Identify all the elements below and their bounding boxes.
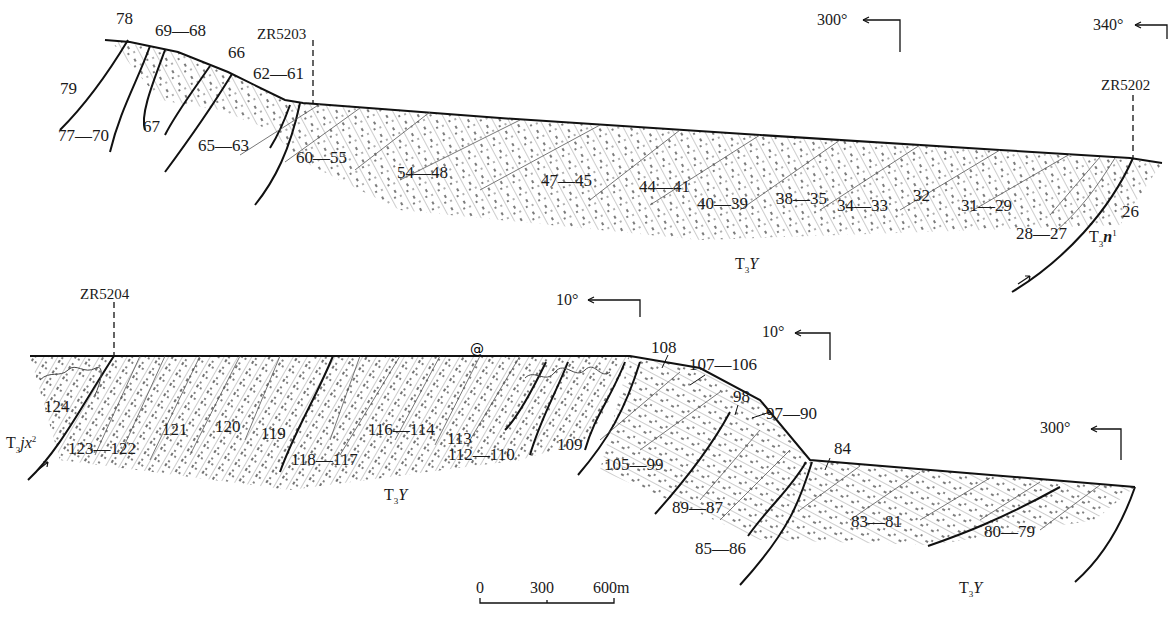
well-label-zr5204: ZR5204 bbox=[80, 287, 129, 302]
bed-label: 34—33 bbox=[837, 197, 888, 214]
orientation-marker-10-b bbox=[795, 330, 830, 360]
bed-label: 69—68 bbox=[155, 22, 206, 39]
scale-tick-300: 300 bbox=[530, 580, 554, 596]
bed-label: 121 bbox=[162, 421, 188, 438]
orientation-marker-10-a bbox=[588, 297, 640, 317]
orientation-label-10-b: 10° bbox=[762, 324, 784, 340]
bed-label: 32 bbox=[913, 187, 930, 204]
orientation-marker-300-lower bbox=[1091, 426, 1121, 460]
orientation-marker-300-upper bbox=[863, 17, 900, 52]
unit-label-t3y-lower-right: T3Y bbox=[959, 580, 982, 599]
bed-label: 77—70 bbox=[58, 127, 109, 144]
bed-label: 54—48 bbox=[397, 164, 448, 181]
unit-label-t3jx2: T3jx2 bbox=[6, 435, 36, 455]
bed-label: 89—87 bbox=[672, 499, 723, 516]
scale-tick-0: 0 bbox=[476, 580, 484, 596]
bed-label: 47—45 bbox=[541, 172, 592, 189]
bed-label: 118—117 bbox=[291, 451, 358, 468]
bed-label: 108 bbox=[651, 339, 677, 356]
unit-label-t3n1: T3n1 bbox=[1089, 229, 1117, 249]
bed-label: 78 bbox=[116, 10, 133, 27]
bed-label: 97—90 bbox=[766, 405, 817, 422]
bed-label: 80—79 bbox=[984, 523, 1035, 540]
bed-label: 65—63 bbox=[198, 137, 249, 154]
bed-label: 107—106 bbox=[689, 356, 757, 373]
bed-label: 31—29 bbox=[961, 197, 1012, 214]
bed-label: 28—27 bbox=[1016, 225, 1067, 242]
bed-label: 83—81 bbox=[851, 513, 902, 530]
bed-label: 84 bbox=[834, 440, 851, 457]
scale-bar bbox=[480, 598, 614, 603]
bed-label: 38—35 bbox=[776, 190, 827, 207]
orientation-label-300: 300° bbox=[817, 12, 847, 28]
bed-label: 98 bbox=[733, 388, 750, 405]
scale-tick-600m: 600m bbox=[593, 580, 629, 596]
unit-label-t3y-lower: T3Y bbox=[384, 487, 407, 506]
bed-label: 44—41 bbox=[639, 178, 690, 195]
bed-label: 105—99 bbox=[604, 456, 664, 473]
bed-label: 62—61 bbox=[253, 65, 304, 82]
bed-label: 119 bbox=[261, 425, 286, 442]
fossil-icon: @ bbox=[470, 341, 484, 357]
bed-label: 66 bbox=[228, 44, 245, 61]
bed-label: 85—86 bbox=[695, 540, 746, 557]
bed-label: 109 bbox=[557, 436, 583, 453]
unit-label-t3y-upper: T3Y bbox=[735, 256, 758, 275]
bed-label: 116—114 bbox=[368, 421, 435, 438]
orientation-label-300-lower: 300° bbox=[1040, 420, 1070, 436]
bed-label: 79 bbox=[60, 80, 77, 97]
bed-label: 60—55 bbox=[296, 149, 347, 166]
bed-label: 120 bbox=[215, 418, 241, 435]
bed-label: 124 bbox=[44, 398, 70, 415]
bed-label: 112—110 bbox=[448, 446, 515, 463]
orientation-label-10-a: 10° bbox=[556, 292, 578, 308]
orientation-label-340: 340° bbox=[1093, 17, 1123, 33]
well-label-zr5203: ZR5203 bbox=[257, 27, 306, 42]
well-label-zr5202: ZR5202 bbox=[1101, 78, 1150, 93]
bed-label: 40—39 bbox=[697, 195, 748, 212]
bed-label: 123—122 bbox=[68, 440, 136, 457]
upper-section bbox=[60, 17, 1170, 320]
orientation-marker-340 bbox=[1135, 22, 1167, 39]
bed-label: 67 bbox=[143, 118, 160, 135]
bed-label: 26 bbox=[1122, 203, 1139, 220]
